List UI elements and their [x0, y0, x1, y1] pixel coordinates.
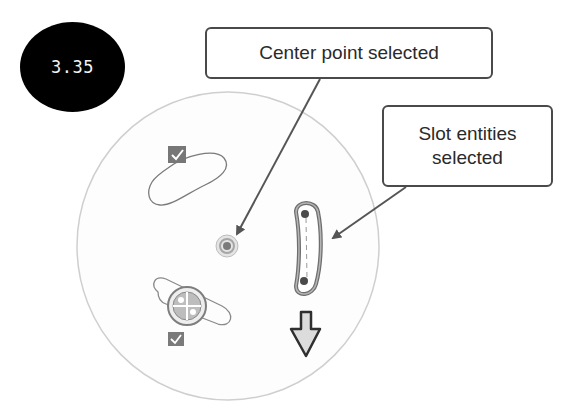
step-number: 3.35: [51, 57, 94, 77]
slot-endpoint-bottom[interactable]: [300, 277, 308, 285]
callout-slot-entities: Slot entities selected: [382, 105, 553, 187]
rotate-handle-icon[interactable]: [168, 287, 206, 325]
step-number-badge: 3.35: [20, 22, 125, 112]
callout-center-point: Center point selected: [205, 27, 493, 79]
checkbox-icon[interactable]: [168, 146, 186, 163]
sketch-illustration: 3.35 Center point selected Slot entities…: [0, 0, 566, 418]
checkbox-icon[interactable]: [168, 332, 184, 346]
curved-slot-selected[interactable]: [296, 203, 321, 294]
callout-slot-line2: selected: [432, 146, 503, 170]
center-point[interactable]: [216, 235, 238, 257]
slot-endpoint-top[interactable]: [301, 210, 309, 218]
callout-center-point-text: Center point selected: [259, 41, 439, 65]
callout-slot-line1: Slot entities: [418, 122, 516, 146]
